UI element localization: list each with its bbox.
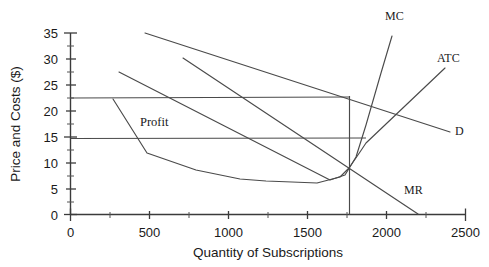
x-ticklabel-1000: 1000	[214, 225, 243, 240]
y-axis-group: 35 30 25 20 15 10 5 0 Price and Costs ($…	[8, 26, 77, 223]
d-label: D	[455, 124, 464, 138]
x-ticklabel-500: 500	[139, 225, 161, 240]
demand-curve	[145, 33, 450, 132]
y-axis-title: Price and Costs ($)	[8, 66, 23, 182]
x-ticklabel-0: 0	[67, 225, 74, 240]
mc-label: MC	[385, 9, 404, 23]
y-ticklabel-30: 30	[44, 52, 58, 67]
mr-label: MR	[404, 183, 423, 197]
marginal-revenue-curve	[183, 58, 418, 214]
y-ticklabel-15: 15	[44, 130, 58, 145]
reference-lines-group	[71, 96, 367, 215]
atc-label: ATC	[437, 51, 460, 65]
profit-region-label: Profit	[140, 115, 169, 129]
x-ticklabel-2000: 2000	[372, 225, 401, 240]
y-ticklabel-25: 25	[44, 78, 58, 93]
x-ticklabel-1500: 1500	[293, 225, 322, 240]
x-axis-group: 0 500 1000 1500 2000 2500 Quantity of Su…	[67, 209, 480, 261]
x-ticklabel-2500: 2500	[451, 225, 480, 240]
x-axis-title: Quantity of Subscriptions	[193, 245, 343, 260]
chart-canvas: 35 30 25 20 15 10 5 0 Price and Costs ($…	[0, 0, 489, 267]
y-ticklabel-35: 35	[44, 26, 58, 41]
marginal-cost-curve	[119, 36, 392, 180]
average-cost-line	[71, 138, 367, 139]
y-ticklabel-0: 0	[51, 208, 58, 223]
y-ticklabel-20: 20	[44, 104, 58, 119]
y-ticklabel-10: 10	[44, 156, 58, 171]
economics-chart: 35 30 25 20 15 10 5 0 Price and Costs ($…	[0, 0, 489, 267]
y-ticklabel-5: 5	[51, 182, 58, 197]
price-line	[71, 97, 351, 98]
